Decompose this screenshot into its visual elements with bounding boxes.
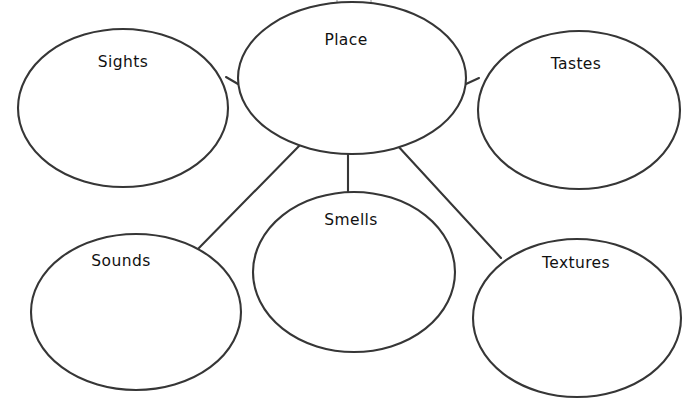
bubble-sounds[interactable]: Sounds (31, 234, 241, 390)
bubble-textures-label: Textures (541, 254, 610, 272)
bubble-smells[interactable]: Smells (253, 192, 455, 352)
bubble-textures[interactable]: Textures (473, 239, 681, 397)
bubble-place-label: Place (324, 31, 367, 49)
bubble-sights-label: Sights (98, 53, 148, 71)
bubble-sights[interactable]: Sights (18, 29, 228, 187)
connector-place-to-tastes (466, 78, 479, 84)
bubble-smells-label: Smells (324, 211, 378, 229)
bubble-tastes-label: Tastes (550, 55, 602, 73)
bubble-sounds-label: Sounds (91, 252, 150, 270)
place-sensory-web-diagram: Sights Tastes Sounds Smells Textures Pla… (0, 0, 697, 413)
bubble-place[interactable]: Place (238, 2, 466, 154)
bubble-tastes[interactable]: Tastes (478, 31, 680, 189)
connector-place-to-sights (226, 77, 238, 84)
bubble-place-outline (238, 2, 466, 154)
diagram-canvas: Sights Tastes Sounds Smells Textures Pla… (0, 0, 697, 413)
